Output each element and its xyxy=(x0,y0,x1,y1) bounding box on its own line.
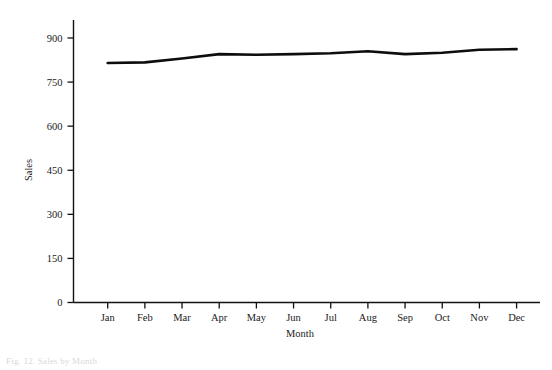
y-tick-label: 600 xyxy=(47,121,63,132)
y-axis-title: Sales xyxy=(23,159,34,181)
figure-container: 0150300450600750900 JanFebMarAprMayJunJu… xyxy=(0,0,552,370)
x-tick-label: Jun xyxy=(286,312,301,323)
x-tick-label: May xyxy=(247,312,267,323)
y-tick-label: 300 xyxy=(47,209,63,220)
x-tick-label: Feb xyxy=(137,312,153,323)
x-tick-label: Dec xyxy=(508,312,525,323)
sales-line-series xyxy=(108,49,517,63)
y-tick-label: 900 xyxy=(47,33,63,44)
x-tick-group xyxy=(108,303,517,309)
x-tick-label: Jul xyxy=(325,312,337,323)
y-tick-label: 450 xyxy=(47,165,63,176)
x-tick-label: Nov xyxy=(470,312,489,323)
line-chart: 0150300450600750900 JanFebMarAprMayJunJu… xyxy=(0,0,552,370)
x-tick-label-group: JanFebMarAprMayJunJulAugSepOctNovDec xyxy=(101,312,526,323)
y-tick-label-group: 0150300450600750900 xyxy=(47,33,63,309)
x-tick-label: Mar xyxy=(173,312,191,323)
x-tick-label: Aug xyxy=(359,312,378,323)
x-tick-label: Apr xyxy=(211,312,228,323)
y-tick-group xyxy=(68,38,74,303)
figure-caption: Fig. 12. Sales by Month xyxy=(6,356,97,369)
x-tick-label: Jan xyxy=(101,312,116,323)
x-axis-title: Month xyxy=(286,328,315,339)
x-tick-label: Oct xyxy=(435,312,450,323)
x-tick-label: Sep xyxy=(397,312,413,323)
y-tick-label: 750 xyxy=(47,77,63,88)
y-tick-label: 0 xyxy=(57,297,62,308)
y-tick-label: 150 xyxy=(47,253,63,264)
